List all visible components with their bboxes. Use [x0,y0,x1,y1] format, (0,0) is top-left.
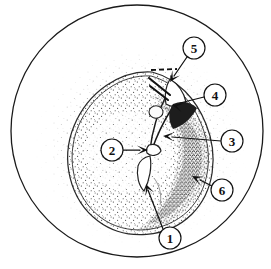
label-number-5: 5 [191,41,198,56]
anatomical-illustration: 123456 [0,0,271,269]
label-number-1: 1 [167,231,174,246]
label-number-3: 3 [229,134,236,149]
label-number-4: 4 [212,88,219,103]
notch-at-label-2 [147,144,161,155]
label-number-6: 6 [219,183,226,198]
figure-root: 123456 [0,0,271,269]
label-number-2: 2 [109,143,116,158]
pale-nodule [149,106,163,118]
